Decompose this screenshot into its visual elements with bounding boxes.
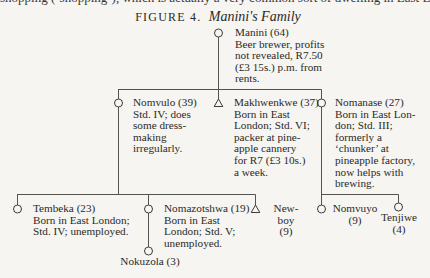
male-symbol-makhwenkwe: [214, 99, 223, 107]
female-symbol-tenjiwe: [395, 203, 403, 211]
female-symbol-nomazotshwa: [145, 205, 153, 213]
female-symbol-nokuzola: [145, 247, 153, 255]
person-name: Tembeka (23): [33, 203, 130, 215]
person-nokuzola: Nokuzola (3): [115, 256, 185, 268]
person-makhwenkwe: Makhwenkwe (37) Born in East London; Std…: [234, 97, 319, 178]
person-detail: a week.: [234, 167, 319, 179]
person-detail: pineapple factory,: [335, 155, 415, 167]
person-detail: unemployed.: [164, 238, 249, 250]
person-name: New-boy: [266, 203, 306, 226]
person-name: Manini (64): [235, 27, 324, 39]
female-symbol-nomvulo: [115, 99, 123, 107]
person-age: (9): [332, 215, 378, 227]
person-name: Makhwenkwe (37): [234, 97, 319, 109]
person-manini: Manini (64) Beer brewer, profits not rev…: [235, 27, 324, 85]
person-tenjiwe: Tenjiwe (4): [378, 212, 420, 235]
person-detail: rents.: [235, 73, 324, 85]
person-detail: brewing.: [335, 178, 415, 190]
person-name: Nomanase (27): [335, 97, 415, 109]
person-age: (9): [266, 226, 306, 238]
person-nomazotshwa: Nomazotshwa (19) Born in East London; St…: [164, 203, 249, 249]
person-detail: Std. IV; unemployed.: [33, 226, 130, 238]
person-nomvulo: Nomvulo (39) Std. IV; does some dress- m…: [133, 97, 197, 155]
person-detail: for R7 (£3 10s.): [234, 155, 319, 167]
person-name: Nomazotshwa (19): [164, 203, 249, 215]
person-name: Nokuzola (3): [115, 256, 185, 268]
female-symbol-tembeka: [14, 205, 22, 213]
male-symbol-newboy: [251, 205, 260, 213]
person-age: (4): [378, 224, 420, 236]
female-symbol-nomvuyo: [318, 205, 326, 213]
person-nomvuyo: Nomvuyo (9): [332, 203, 378, 226]
person-detail: irregularly.: [133, 143, 197, 155]
person-name: Nomvuyo: [332, 203, 378, 215]
female-symbol-manini: [215, 29, 223, 37]
person-tembeka: Tembeka (23) Born in East London; Std. I…: [33, 203, 130, 238]
person-newboy: New-boy (9): [266, 203, 306, 238]
person-name: Nomvulo (39): [133, 97, 197, 109]
person-name: Tenjiwe: [378, 212, 420, 224]
person-nomanase: Nomanase (27) Born in East Lon- don; Std…: [335, 97, 415, 190]
